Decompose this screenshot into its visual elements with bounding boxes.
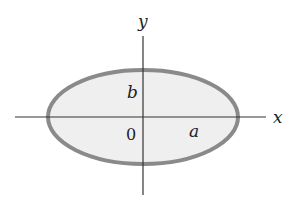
semi-minor-axis-label: b xyxy=(127,82,138,102)
origin-label: 0 xyxy=(126,125,136,144)
x-axis-label: x xyxy=(273,107,283,127)
y-axis-label: y xyxy=(137,11,148,31)
ellipse-diagram: x y b 0 a xyxy=(0,0,289,206)
semi-major-axis-label: a xyxy=(189,121,199,141)
